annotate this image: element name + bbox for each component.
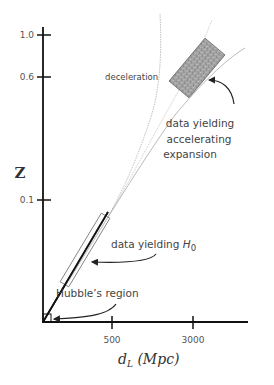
accelerating-data-box xyxy=(169,38,225,98)
y-axis-title: Z xyxy=(15,164,26,182)
hubble-region-label: Hubble’s region xyxy=(56,287,139,299)
accelerating-label-line2: accelerating xyxy=(167,133,232,145)
y-axis xyxy=(37,27,51,323)
accelerating-label-line1: data yielding xyxy=(166,117,234,129)
hubble-diagram: 1.0 0.6 0.1 500 3000 Z dL (Mpc) decelera… xyxy=(0,0,274,385)
deceleration-curve xyxy=(43,14,161,322)
acceleration-curve xyxy=(43,48,245,322)
accelerating-label-line3: expansion xyxy=(163,148,217,160)
accelerating-arrow xyxy=(209,80,234,104)
x-tick-500: 500 xyxy=(103,335,120,345)
h0-arrow xyxy=(92,254,156,262)
y-tick-1.0: 1.0 xyxy=(20,30,35,40)
hubble-region-arrow xyxy=(54,304,116,319)
deceleration-label: deceleration xyxy=(105,72,158,82)
y-tick-0.6: 0.6 xyxy=(20,72,35,82)
x-tick-3000: 3000 xyxy=(182,335,205,345)
h0-label: data yielding H0 xyxy=(111,238,196,253)
x-axis-title: dL (Mpc) xyxy=(118,351,179,369)
y-tick-0.1: 0.1 xyxy=(20,195,34,205)
